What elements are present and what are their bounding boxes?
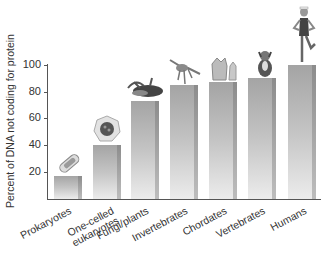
human-runner-icon [291,6,317,64]
y-tick-label-80: 80 [17,85,41,97]
x-axis-line [47,199,321,200]
bacterium-icon [56,150,82,176]
bar-one-celled-eukaryotes [93,145,121,199]
y-tick-label-40: 40 [17,138,41,150]
sea-squirt-icon [209,56,239,82]
bar-humans [288,65,316,199]
y-tick-label-60: 60 [17,111,41,123]
x-label-humans: Humans [268,205,308,233]
y-tick-label-20: 20 [17,165,41,177]
single-cell-icon [92,114,122,144]
y-tick-40 [44,145,48,146]
y-tick-20 [44,172,48,173]
bar-fungi-plants [131,101,159,199]
bar-vertebrates [248,78,276,199]
x-label-prokaryotes: Prokaryotes [19,205,74,241]
y-axis-label: Percent of DNA not coding for protein [4,34,16,208]
bar-prokaryotes [54,176,82,199]
plant-fungus-icon [124,74,166,100]
y-tick-60 [44,118,48,119]
y-tick-100 [44,65,48,66]
bar-invertebrates [170,85,198,199]
insect-icon [166,56,204,88]
y-tick-label-100: 100 [17,58,41,70]
bar-chart: Percent of DNA not coding for protein 20… [0,0,332,259]
bar-chordates [209,82,237,199]
y-tick-80 [44,92,48,93]
dog-icon [255,48,275,78]
y-axis-line [47,64,48,200]
